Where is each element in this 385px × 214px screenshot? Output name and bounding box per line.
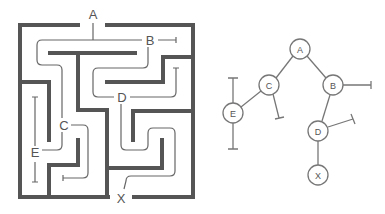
tree-edge-a-c [276,56,293,78]
tree-node-b: B [323,75,343,95]
maze-and-tree-diagram: ABCDEX ACBEDX [0,0,385,214]
maze-path-b-deadend [158,37,176,43]
tree-node-x: X [308,165,328,185]
maze-path-c-to-e [42,132,62,150]
tree-edge-b-d [322,95,330,121]
maze-path-d-to-x [121,104,175,189]
tree-edge-a-b [307,56,326,78]
maze-path-c-deadend [63,125,88,181]
tree-node-label: A [297,45,303,55]
tree-node-label: D [315,127,322,137]
tree-node-d: D [308,121,328,141]
maze-path-e-down [32,162,38,182]
maze-path-e-up [32,97,38,146]
tree-node-c: C [259,75,279,95]
maze-label-d: D [117,90,126,105]
maze-label-x: X [117,191,126,206]
maze-label-e: E [31,145,40,160]
tree-node-label: X [315,171,321,181]
tree-deadend-b [343,81,371,89]
maze-wall-left-lower [49,140,78,197]
maze-label-b: B [146,33,155,48]
tree-deadend-e-down [228,123,238,149]
tree-node-e: E [223,103,243,123]
tree-deadend-c [273,94,284,119]
maze-wall-right-upper [107,57,193,82]
maze-label-a: A [89,7,98,22]
tree-edge-c-e [241,91,261,107]
tree-node-label: C [266,81,273,91]
tree-node-label: E [230,109,236,119]
decision-tree: ACBEDX [223,39,371,185]
maze-wall-right-lower [107,140,162,168]
maze-wall-right-middle [133,111,193,140]
maze: ABCDEX [20,7,193,206]
tree-deadend-d [328,114,355,127]
diagram-canvas: ABCDEX ACBEDX [0,0,385,214]
maze-walls [20,25,193,197]
tree-edges [228,56,371,165]
tree-deadend-e-up [228,78,238,103]
tree-node-label: B [330,81,336,91]
tree-node-a: A [290,39,310,59]
maze-label-c: C [59,118,68,133]
